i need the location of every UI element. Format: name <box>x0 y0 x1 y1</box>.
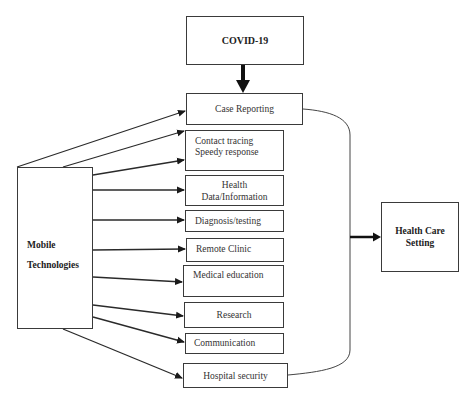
app-box-hospital-security: Hospital security <box>183 363 288 388</box>
mobile-technologies-label-line1: Mobile <box>27 239 56 251</box>
app-label: Speedy response <box>195 146 259 158</box>
app-box-contact-tracing: Contact tracing Speedy response <box>185 130 284 171</box>
app-label: Case Reporting <box>215 103 274 115</box>
app-label: Hospital security <box>203 370 268 382</box>
health-care-setting-box: Health Care Setting <box>381 202 459 272</box>
app-label: Remote Clinic <box>196 243 251 255</box>
app-label: Medical education <box>193 269 263 281</box>
app-box-case-reporting: Case Reporting <box>186 93 303 125</box>
app-label: Data/Information <box>186 191 283 203</box>
app-label: Communication <box>194 337 255 349</box>
app-box-diagnosis-testing: Diagnosis/testing <box>185 210 284 232</box>
app-box-communication: Communication <box>185 333 284 354</box>
app-box-medical-education: Medical education <box>183 265 284 297</box>
covid-19-box: COVID-19 <box>186 16 304 65</box>
health-care-setting-label-line1: Health Care <box>395 225 445 237</box>
app-label: Health <box>186 179 283 191</box>
covid-19-label: COVID-19 <box>222 35 269 47</box>
app-label: Diagnosis/testing <box>195 215 261 227</box>
grouping-bracket <box>288 109 350 375</box>
mobile-technologies-label-line2: Technologies <box>27 259 79 271</box>
app-box-health-data: Health Data/Information <box>185 175 284 206</box>
health-care-setting-label-line2: Setting <box>406 237 435 249</box>
covid-to-case-arrow <box>236 65 250 93</box>
app-box-research: Research <box>184 302 284 328</box>
mobile-technologies-box: Mobile Technologies <box>17 167 93 329</box>
bracket-to-target-arrow <box>350 233 381 242</box>
app-label: Research <box>217 309 252 321</box>
app-box-remote-clinic: Remote Clinic <box>186 238 284 262</box>
